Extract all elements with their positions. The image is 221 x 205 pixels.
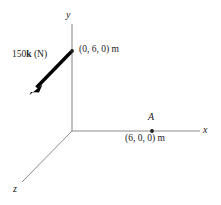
z-axis-label: z xyxy=(13,184,17,194)
point-a-label: A xyxy=(148,112,154,122)
force-vector-diagram: y x z 150k (N) (0, 6, 0) m A (6, 0, 0) m xyxy=(0,0,221,205)
force-magnitude-value: 150 xyxy=(12,49,26,59)
force-unit-vector-k: k xyxy=(26,49,31,59)
point-a-coordinate-label: (6, 0, 0) m xyxy=(125,134,165,144)
force-vector-label: 150k (N) xyxy=(12,50,47,60)
z-axis-line xyxy=(22,131,72,182)
diagram-canvas xyxy=(0,0,221,205)
force-units: (N) xyxy=(34,49,47,59)
y-axis-label: y xyxy=(66,10,70,20)
force-point-coordinate-label: (0, 6, 0) m xyxy=(79,45,119,55)
x-axis-label: x xyxy=(203,125,207,135)
